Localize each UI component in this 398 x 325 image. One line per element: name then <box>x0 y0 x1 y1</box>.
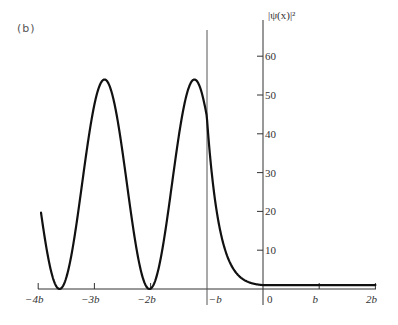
x-ticks: −4b−3b−2b−b0b2b <box>25 283 377 305</box>
x-tick-label: 0 <box>267 293 273 305</box>
y-tick-label: 10 <box>265 244 277 256</box>
x-tick-label: −4b <box>25 293 44 305</box>
y-tick-label: 50 <box>265 89 277 101</box>
x-tick-label: −3b <box>81 293 100 305</box>
y-tick-label: 60 <box>265 50 277 62</box>
chart: −4b−3b−2b−b0b2b 102030405060 |ψ(x)|² <box>0 0 398 325</box>
y-tick-label: 40 <box>265 128 277 140</box>
x-tick-label: 2b <box>366 293 378 305</box>
y-tick-label: 20 <box>265 205 277 217</box>
x-tick-label: b <box>312 293 318 305</box>
wavefunction-curve <box>41 79 375 289</box>
y-axis-label: |ψ(x)|² <box>268 9 296 22</box>
x-tick-label: −2b <box>137 293 156 305</box>
axes <box>38 20 376 305</box>
y-ticks: 102030405060 <box>257 50 277 256</box>
y-tick-label: 30 <box>265 167 277 179</box>
x-tick-label: −b <box>209 293 222 305</box>
